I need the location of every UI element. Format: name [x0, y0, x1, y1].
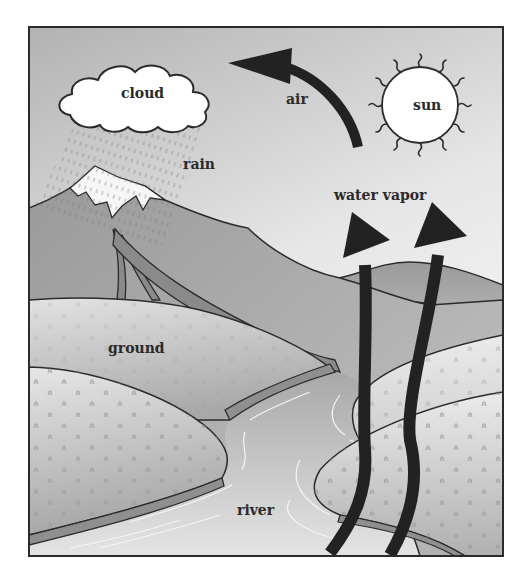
label-water-vapor: water vapor	[334, 188, 426, 202]
label-air: air	[286, 92, 308, 106]
label-sun: sun	[413, 98, 441, 112]
label-cloud: cloud	[121, 86, 164, 100]
label-river: river	[237, 503, 274, 517]
water-cycle-diagram	[0, 0, 529, 579]
label-ground: ground	[108, 341, 165, 355]
label-rain: rain	[183, 157, 215, 171]
